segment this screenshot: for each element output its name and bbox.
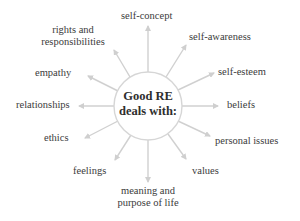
node-feelings: feelings <box>73 165 106 177</box>
spider-diagram: Good RE deals with: self-concept self-aw… <box>0 0 300 221</box>
node-meaning-line1: meaning and <box>108 185 188 197</box>
node-rights-line1: rights and <box>36 24 110 36</box>
node-rights-and-responsibilities: rights and responsibilities <box>36 24 110 48</box>
node-meaning-line2: purpose of life <box>108 197 188 209</box>
node-rights-line2: responsibilities <box>36 36 110 48</box>
node-values: values <box>192 165 219 177</box>
center-title-line2: deals with: <box>114 104 182 119</box>
node-empathy: empathy <box>35 67 71 79</box>
node-self-concept: self-concept <box>121 10 172 22</box>
node-ethics: ethics <box>44 132 69 144</box>
node-relationships: relationships <box>16 99 70 111</box>
node-self-awareness: self-awareness <box>189 31 251 43</box>
center-title-line1: Good RE <box>114 89 182 104</box>
node-self-esteem: self-esteem <box>218 66 266 78</box>
center-title: Good RE deals with: <box>114 89 182 119</box>
node-beliefs: beliefs <box>227 99 255 111</box>
node-meaning-and-purpose: meaning and purpose of life <box>108 185 188 209</box>
node-personal-issues: personal issues <box>215 135 278 147</box>
